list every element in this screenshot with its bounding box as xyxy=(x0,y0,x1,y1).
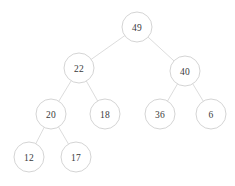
tree-node: 12 xyxy=(14,142,44,172)
node-label: 36 xyxy=(155,110,165,120)
tree-edge xyxy=(59,127,69,144)
edge-layer xyxy=(36,36,203,144)
tree-edge xyxy=(168,84,178,101)
node-label: 49 xyxy=(132,23,142,33)
binary-tree-canvas: 49224020183661217 xyxy=(0,0,235,186)
node-label: 22 xyxy=(74,64,84,74)
tree-node: 36 xyxy=(145,99,175,129)
binary-tree-figure: 49224020183661217 xyxy=(0,0,235,186)
tree-node: 49 xyxy=(122,12,152,42)
tree-node: 40 xyxy=(170,56,200,86)
tree-edge xyxy=(193,84,203,101)
tree-node: 6 xyxy=(196,99,226,129)
tree-edge xyxy=(36,127,44,143)
tree-edge xyxy=(86,81,97,101)
node-label: 18 xyxy=(100,110,110,120)
tree-node: 20 xyxy=(36,99,66,129)
node-label: 17 xyxy=(71,153,81,163)
tree-node: 22 xyxy=(64,53,94,83)
node-label: 12 xyxy=(24,153,34,163)
tree-node: 18 xyxy=(90,99,120,129)
tree-edge xyxy=(59,81,71,101)
node-label: 40 xyxy=(180,67,190,77)
node-layer: 49224020183661217 xyxy=(14,12,226,172)
node-label: 20 xyxy=(46,110,56,120)
tree-edge xyxy=(148,37,174,61)
tree-edge xyxy=(91,36,125,60)
tree-node: 17 xyxy=(61,142,91,172)
node-label: 6 xyxy=(209,110,214,120)
